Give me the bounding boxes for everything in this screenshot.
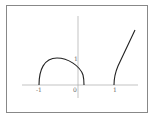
y-tick-1: 1 xyxy=(74,55,78,62)
chart-plot: -1 0 1 1 xyxy=(0,0,154,120)
curve-right-branch xyxy=(114,30,135,85)
x-tick-0: 0 xyxy=(73,86,77,93)
x-tick-neg1: -1 xyxy=(36,86,42,93)
x-tick-1: 1 xyxy=(113,86,117,93)
curve-left-branch xyxy=(39,58,84,85)
